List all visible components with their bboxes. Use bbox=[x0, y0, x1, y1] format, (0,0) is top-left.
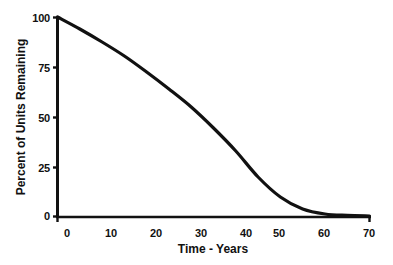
data-series bbox=[58, 17, 370, 216]
chart-canvas bbox=[0, 0, 393, 265]
x-tick-label-40: 40 bbox=[240, 228, 252, 239]
x-tick-label-20: 20 bbox=[150, 228, 162, 239]
decay-curve bbox=[58, 17, 370, 216]
axes bbox=[56, 17, 371, 218]
chart-figure: 100 75 50 25 0 0 10 20 30 40 50 60 70 Ti… bbox=[0, 0, 393, 265]
x-axis-title: Time - Years bbox=[178, 243, 248, 255]
x-tick-label-60: 60 bbox=[318, 228, 330, 239]
y-tick-label-0: 0 bbox=[22, 211, 50, 222]
x-tick-label-70: 70 bbox=[363, 228, 375, 239]
x-tick-label-30: 30 bbox=[195, 228, 207, 239]
x-tick-label-10: 10 bbox=[105, 228, 117, 239]
x-tick-label-50: 50 bbox=[273, 228, 285, 239]
x-tick-label-0: 0 bbox=[64, 228, 70, 239]
y-axis-title: Percent of Units Remaining bbox=[15, 39, 27, 196]
y-tick-label-100: 100 bbox=[22, 13, 50, 24]
